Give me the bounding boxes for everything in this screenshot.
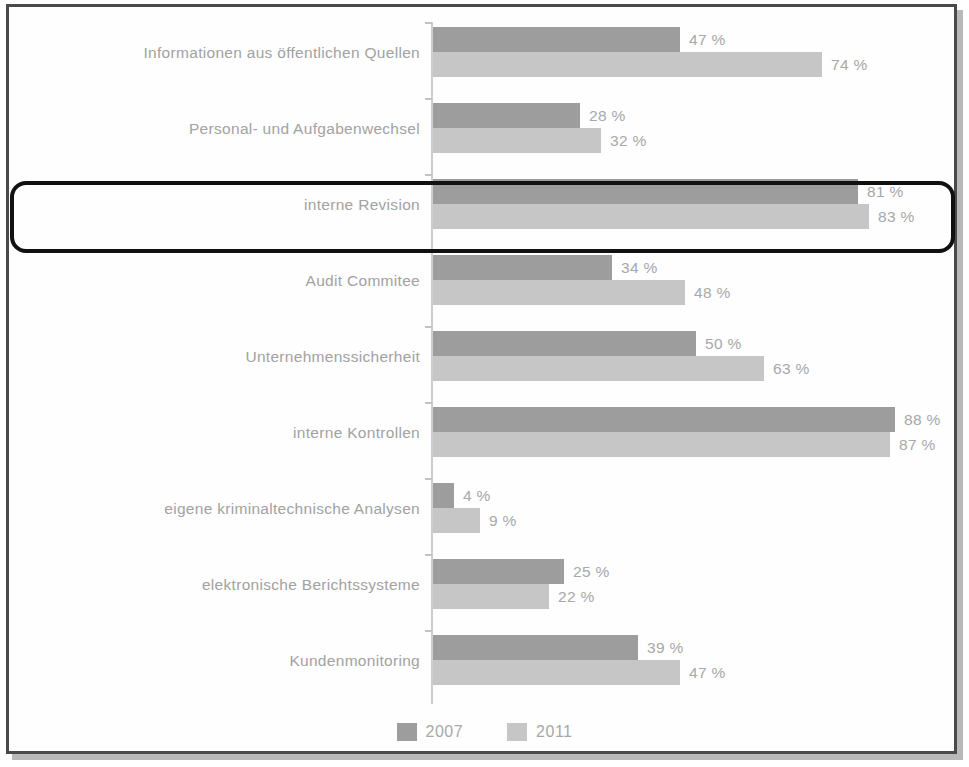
bar-value-label: 47 % [689, 31, 726, 49]
bar-2007 [433, 331, 696, 356]
legend-label: 2007 [426, 723, 464, 741]
axis-tick [425, 22, 432, 24]
category-label: interne Kontrollen [0, 424, 420, 442]
bar-value-label: 28 % [589, 107, 626, 125]
bar-value-label: 81 % [867, 183, 904, 201]
legend-swatch-icon [397, 723, 417, 741]
axis-tick [425, 326, 432, 328]
chart-legend: 20072011 [0, 723, 969, 741]
bar-value-label: 4 % [463, 487, 491, 505]
category-label: Audit Commitee [0, 272, 420, 290]
category-label: Personal- und Aufgabenwechsel [0, 120, 420, 138]
bar-2011 [433, 584, 549, 609]
bar-2007 [433, 559, 564, 584]
legend-item-2011: 2011 [507, 723, 572, 741]
category-label: Kundenmonitoring [0, 652, 420, 670]
bar-2007 [433, 635, 638, 660]
bar-2011 [433, 280, 685, 305]
category-label: elektronische Berichtssysteme [0, 576, 420, 594]
axis-tick [425, 402, 432, 404]
bar-value-label: 22 % [558, 588, 595, 606]
legend-label: 2011 [536, 723, 572, 741]
bar-2007 [433, 407, 895, 432]
category-label: eigene kriminaltechnische Analysen [0, 500, 420, 518]
bar-value-label: 87 % [899, 436, 936, 454]
bar-value-label: 25 % [573, 563, 610, 581]
legend-item-2007: 2007 [397, 723, 464, 741]
category-label: Unternehmenssicherheit [0, 348, 420, 366]
axis-tick [425, 630, 432, 632]
legend-swatch-icon [507, 723, 527, 741]
bar-2011 [433, 356, 764, 381]
axis-tick [425, 554, 432, 556]
bar-2007 [433, 255, 612, 280]
bar-value-label: 74 % [831, 56, 868, 74]
bar-2011 [433, 660, 680, 685]
bar-value-label: 48 % [694, 284, 731, 302]
category-label: interne Revision [0, 196, 420, 214]
bar-2007 [433, 483, 454, 508]
bar-value-label: 63 % [773, 360, 810, 378]
axis-tick [425, 250, 432, 252]
bar-2007 [433, 103, 580, 128]
bar-value-label: 32 % [610, 132, 647, 150]
bar-value-label: 83 % [878, 208, 915, 226]
axis-tick [425, 98, 432, 100]
bar-chart-plot-area: Informationen aus öffentlichen Quellen47… [0, 0, 969, 767]
bar-2007 [433, 179, 858, 204]
bar-value-label: 9 % [489, 512, 517, 530]
bar-2011 [433, 432, 890, 457]
bar-2011 [433, 52, 822, 77]
bar-2007 [433, 27, 680, 52]
axis-tick [425, 478, 432, 480]
bar-value-label: 47 % [689, 664, 726, 682]
category-label: Informationen aus öffentlichen Quellen [0, 44, 420, 62]
bar-2011 [433, 508, 480, 533]
bar-value-label: 34 % [621, 259, 658, 277]
bar-2011 [433, 204, 869, 229]
bar-2011 [433, 128, 601, 153]
chart-page: Informationen aus öffentlichen Quellen47… [0, 0, 969, 767]
bar-value-label: 50 % [705, 335, 742, 353]
bar-value-label: 39 % [647, 639, 684, 657]
axis-tick [425, 174, 432, 176]
bar-value-label: 88 % [904, 411, 941, 429]
